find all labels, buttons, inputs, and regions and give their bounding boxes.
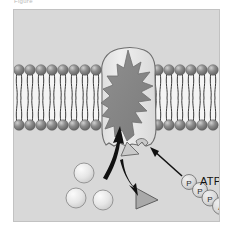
atp-text-label: ATP bbox=[200, 175, 220, 187]
active-transport-diagram: P P P A bbox=[14, 10, 219, 221]
atp-phosphate-label: P bbox=[197, 187, 202, 196]
atp-phosphate-label: P bbox=[207, 195, 212, 204]
figure-root: Figure bbox=[0, 0, 233, 233]
atp-phosphate-label: P bbox=[186, 179, 191, 188]
carrier-protein bbox=[101, 47, 156, 146]
atp-adenosine-label: A bbox=[218, 202, 219, 212]
figure-caption: Figure bbox=[14, 0, 33, 4]
solute-sphere bbox=[93, 190, 113, 210]
solute-sphere bbox=[66, 188, 86, 208]
diagram-panel: P P P A ATP bbox=[13, 9, 220, 222]
solute-sphere bbox=[74, 163, 94, 183]
